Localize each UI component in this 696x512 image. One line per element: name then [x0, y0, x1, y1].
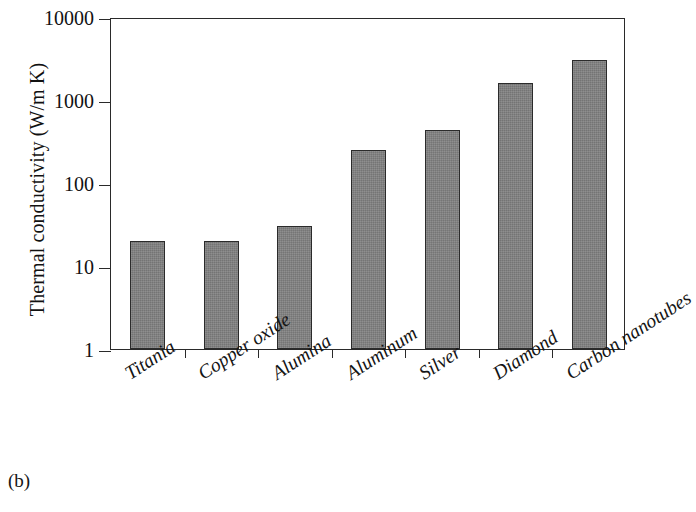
y-axis-tick: 1	[99, 351, 111, 352]
bar	[425, 130, 460, 349]
bar	[351, 150, 386, 349]
x-axis-tick	[552, 349, 553, 358]
y-axis-tick-label: 10	[74, 256, 94, 279]
plot-area: 100001000100101	[110, 18, 625, 350]
x-axis-tick	[185, 349, 186, 358]
y-axis-title: Thermal conductivity (W/m K)	[26, 20, 49, 360]
x-axis-tick	[405, 349, 406, 358]
x-axis-tick	[479, 349, 480, 358]
y-axis-tick-label: 1	[84, 339, 94, 362]
panel-caption: (b)	[8, 470, 30, 492]
bar	[572, 60, 607, 349]
bar	[204, 241, 239, 349]
y-axis-tick: 100	[99, 185, 111, 186]
y-axis-tick-label: 10000	[44, 7, 94, 30]
y-axis-tick-label: 100	[64, 173, 94, 196]
y-axis-tick: 10	[99, 268, 111, 269]
bar	[277, 226, 312, 349]
x-axis-tick	[332, 349, 333, 358]
y-axis-tick: 10000	[99, 19, 111, 20]
bar	[498, 83, 533, 349]
y-axis-tick: 1000	[99, 102, 111, 103]
bar	[130, 241, 165, 349]
y-axis-tick-label: 1000	[54, 90, 94, 113]
x-axis-tick	[258, 349, 259, 358]
